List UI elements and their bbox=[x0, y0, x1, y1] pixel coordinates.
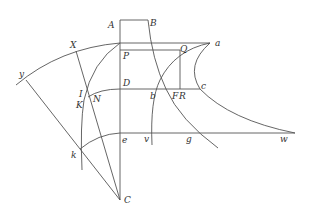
arc-yX bbox=[16, 43, 120, 85]
label-w: w bbox=[280, 134, 288, 144]
label-P: P bbox=[122, 51, 130, 61]
label-v: v bbox=[144, 134, 149, 144]
label-y: y bbox=[18, 69, 25, 79]
label-X: X bbox=[69, 40, 77, 50]
label-I: I bbox=[78, 89, 83, 99]
label-a: a bbox=[215, 38, 220, 48]
label-c: c bbox=[201, 81, 206, 91]
hyperbola-acw bbox=[194, 43, 295, 133]
label-b: b bbox=[150, 91, 156, 101]
label-e: e bbox=[122, 135, 127, 145]
label-F: F bbox=[171, 91, 179, 101]
label-k: k bbox=[71, 150, 76, 160]
label-A: A bbox=[107, 20, 115, 30]
label-D: D bbox=[122, 78, 130, 88]
arc-ke bbox=[80, 133, 120, 149]
label-g: g bbox=[186, 134, 192, 144]
geometric-diagram: A B P Q a X y D I K N b F R c e v g w k … bbox=[0, 0, 310, 218]
label-K: K bbox=[75, 100, 84, 110]
arc-IN bbox=[81, 43, 120, 170]
line-yC bbox=[26, 80, 120, 200]
label-N: N bbox=[92, 94, 102, 104]
label-R: R bbox=[178, 91, 186, 101]
label-B: B bbox=[149, 18, 157, 28]
line-XC bbox=[76, 51, 120, 200]
diagram-canvas: A B P Q a X y D I K N b F R c e v g w k … bbox=[0, 0, 310, 218]
label-C: C bbox=[124, 195, 131, 205]
label-Q: Q bbox=[180, 44, 188, 54]
